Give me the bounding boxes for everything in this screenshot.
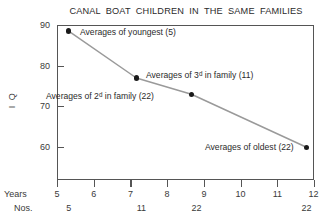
x-tick-label-10: 10 — [231, 189, 251, 199]
x-tick-mark-5 — [57, 180, 58, 187]
x-tick-mark-6 — [94, 180, 95, 187]
x-tick-label-8: 8 — [157, 189, 177, 199]
y-tick-label-90: 90 — [28, 20, 50, 30]
data-point-second-in-family — [189, 92, 194, 97]
nos-value-3: 22 — [184, 203, 208, 213]
nos-value-2: 11 — [129, 203, 153, 213]
x-axis-row-label-years: Years — [4, 189, 27, 199]
x-tick-mark-10 — [241, 180, 242, 187]
x-tick-label-6: 6 — [84, 189, 104, 199]
y-tick-label-60: 60 — [28, 142, 50, 152]
x-axis-row-label-nos: Nos. — [14, 203, 33, 213]
nos-value-4: 22 — [295, 203, 319, 213]
annotation-oldest-text: Averages of oldest (22) — [205, 142, 294, 152]
plot-frame — [57, 25, 314, 180]
annotation-second-text-before: Averages of 2 — [46, 91, 99, 101]
data-point-third-in-family — [134, 75, 139, 80]
y-tick-label-70: 70 — [28, 101, 50, 111]
annotation-third-text-after: in family (11) — [202, 70, 253, 80]
annotation-second-in-family: Averages of 2d in family (22) — [46, 91, 154, 101]
y-tick-mark-60 — [57, 147, 64, 148]
x-tick-label-11: 11 — [267, 189, 287, 199]
x-tick-mark-8 — [167, 180, 168, 187]
chart-figure: CANAL BOAT CHILDREN IN THE SAME FAMILIES… — [0, 0, 329, 223]
y-tick-mark-90 — [57, 25, 64, 26]
annotation-third-text-before: Averages of 3 — [146, 70, 199, 80]
nos-value-1: 5 — [57, 203, 81, 213]
y-axis-title: I Q — [7, 80, 17, 120]
x-tick-label-12: 12 — [304, 189, 324, 199]
annotation-second-text-after: in family (22) — [102, 91, 154, 101]
y-tick-label-80: 80 — [28, 61, 50, 71]
x-tick-mark-11 — [277, 180, 278, 187]
x-axis-line — [57, 179, 314, 180]
annotation-youngest: Averages of youngest (5) — [80, 27, 176, 37]
chart-title: CANAL BOAT CHILDREN IN THE SAME FAMILIES — [57, 6, 315, 16]
x-tick-mark-9 — [204, 180, 205, 187]
y-tick-mark-70 — [57, 106, 64, 107]
annotation-youngest-text: Averages of youngest (5) — [80, 27, 176, 37]
x-tick-mark-12 — [314, 180, 315, 187]
x-tick-label-7: 7 — [120, 189, 140, 199]
x-tick-label-9: 9 — [194, 189, 214, 199]
annotation-third-in-family: Averages of 3d in family (11) — [146, 70, 253, 80]
x-tick-mark-7 — [130, 180, 131, 187]
y-tick-mark-80 — [57, 66, 64, 67]
x-tick-label-5: 5 — [47, 189, 67, 199]
annotation-oldest: Averages of oldest (22) — [205, 142, 294, 152]
